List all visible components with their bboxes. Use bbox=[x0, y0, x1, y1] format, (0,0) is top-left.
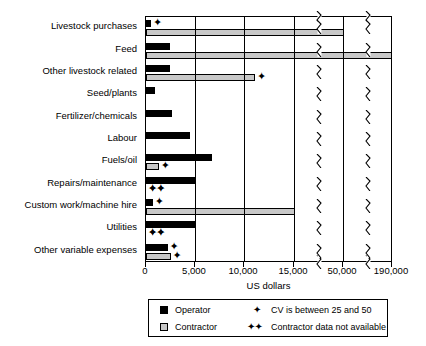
y-axis-category-label: Repairs/maintenance bbox=[47, 178, 137, 188]
y-axis-category-label: Other livestock related bbox=[42, 66, 137, 76]
contractor-swatch bbox=[160, 323, 168, 331]
x-axis-tick bbox=[391, 262, 392, 267]
y-axis-category-label: Seed/plants bbox=[87, 88, 137, 98]
cv-marker-icon: ✦ bbox=[253, 305, 260, 315]
y-axis-category-label: Feed bbox=[115, 44, 137, 54]
y-axis-category-label: Fuels/oil bbox=[102, 155, 137, 165]
operator-bar bbox=[146, 154, 212, 161]
operator-bar bbox=[146, 244, 168, 251]
gridline bbox=[294, 17, 295, 261]
contractor-bar bbox=[146, 74, 255, 81]
legend-note-cv: CV is between 25 and 50 bbox=[271, 305, 372, 315]
table-row bbox=[146, 106, 391, 128]
cv-double-marker-icon: ✦✦ bbox=[148, 229, 164, 236]
operator-bar bbox=[146, 65, 170, 72]
cv-marker-icon: ✦ bbox=[173, 252, 181, 259]
gridline bbox=[343, 17, 344, 261]
x-axis-tick bbox=[243, 262, 244, 267]
y-axis-category-label: Fertilizer/chemicals bbox=[56, 111, 137, 121]
cv-marker-icon: ✦ bbox=[257, 73, 265, 80]
legend-label-operator: Operator bbox=[175, 305, 211, 315]
cv-marker-icon: ✦ bbox=[155, 198, 163, 205]
table-row: ✦✦✦✦ bbox=[146, 174, 391, 196]
table-row bbox=[146, 129, 391, 151]
x-axis-tick bbox=[342, 262, 343, 267]
cv-double-marker-icon: ✦✦ bbox=[247, 322, 262, 332]
x-axis-tick bbox=[293, 262, 294, 267]
legend-note-unavailable: Contractor data not available bbox=[271, 322, 386, 332]
gridline bbox=[195, 17, 196, 261]
x-axis-tick bbox=[145, 262, 146, 267]
chart-legend: Operator ✦ CV is between 25 and 50 Contr… bbox=[148, 299, 388, 337]
operator-swatch bbox=[160, 306, 168, 314]
table-row: ✦ bbox=[146, 17, 391, 39]
table-row bbox=[146, 39, 391, 61]
cv-double-marker-icon: ✦✦ bbox=[148, 185, 164, 192]
operator-bar bbox=[146, 87, 155, 94]
contractor-bar bbox=[146, 208, 295, 215]
operator-bar bbox=[146, 110, 172, 117]
y-axis-category-label: Utilities bbox=[106, 222, 137, 232]
contractor-bar bbox=[146, 253, 171, 260]
y-axis-category-label: Other variable expenses bbox=[34, 245, 137, 255]
table-row bbox=[146, 84, 391, 106]
operator-bar bbox=[146, 20, 151, 27]
x-axis-tick bbox=[194, 262, 195, 267]
x-axis-tick-labels: 05,00010,00015,00050,000190,000 bbox=[0, 265, 426, 279]
gridline bbox=[244, 17, 245, 261]
table-row: ✦✦✦✦ bbox=[146, 218, 391, 240]
operator-bar bbox=[146, 132, 190, 139]
plot-area: ✦✦✦✦✦✦✦✦✦✦✦✦✦✦ bbox=[145, 16, 392, 262]
operator-bar bbox=[146, 199, 153, 206]
y-axis-category-label: Labour bbox=[107, 133, 137, 143]
cv-marker-icon: ✦ bbox=[161, 162, 169, 169]
contractor-bar bbox=[146, 52, 392, 59]
table-row: ✦ bbox=[146, 62, 391, 84]
legend-label-contractor: Contractor bbox=[175, 322, 217, 332]
y-axis-category-label: Livestock purchases bbox=[51, 21, 137, 31]
bar-chart: Livestock purchasesFeedOther livestock r… bbox=[0, 0, 426, 346]
y-axis-category-label: Custom work/machine hire bbox=[25, 200, 137, 210]
x-axis-title: US dollars bbox=[145, 280, 392, 291]
operator-bar bbox=[146, 43, 170, 50]
bar-rows: ✦✦✦✦✦✦✦✦✦✦✦✦✦✦ bbox=[146, 17, 391, 261]
y-axis-labels: Livestock purchasesFeedOther livestock r… bbox=[0, 16, 141, 262]
table-row: ✦ bbox=[146, 151, 391, 173]
contractor-bar bbox=[146, 163, 159, 170]
cv-marker-icon: ✦ bbox=[153, 19, 161, 26]
table-row: ✦ bbox=[146, 196, 391, 218]
table-row: ✦✦ bbox=[146, 241, 391, 263]
